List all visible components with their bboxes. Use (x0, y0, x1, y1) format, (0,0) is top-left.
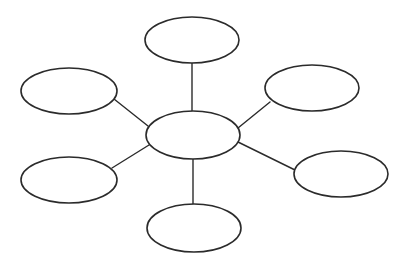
ellipse-top-right[interactable] (265, 65, 359, 111)
connector-line-bottom-right (238, 142, 295, 170)
connector-line-top-right (238, 102, 270, 128)
ellipse-bottom[interactable] (147, 204, 241, 252)
ellipse-bottom-left[interactable] (21, 157, 117, 203)
bubble-top-right[interactable] (265, 65, 359, 111)
bubble-bottom-right[interactable] (294, 151, 388, 197)
bubble-bottom-left[interactable] (21, 157, 117, 203)
ellipse-top[interactable] (145, 17, 239, 63)
central-bubble[interactable] (146, 111, 240, 159)
connector-line-bottom-left (112, 145, 149, 168)
central-ellipse[interactable] (146, 111, 240, 159)
bubble-bottom[interactable] (147, 204, 241, 252)
ellipse-bottom-right[interactable] (294, 151, 388, 197)
connector-line-top-left (114, 99, 148, 126)
bubble-top[interactable] (145, 17, 239, 63)
bubble-nodes (21, 17, 388, 252)
bubble-top-left[interactable] (21, 68, 117, 114)
bubble-map-diagram (0, 0, 408, 266)
ellipse-top-left[interactable] (21, 68, 117, 114)
